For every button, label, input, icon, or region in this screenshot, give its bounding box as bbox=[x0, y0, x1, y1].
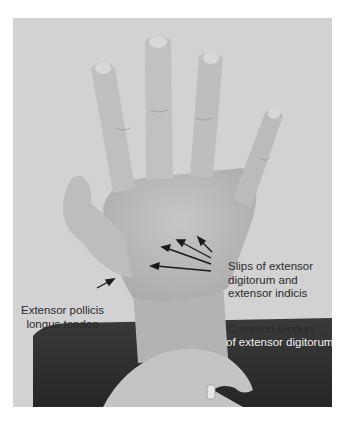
middle-finger bbox=[145, 36, 173, 180]
little-finger bbox=[233, 110, 283, 208]
label-line: longus tendon bbox=[21, 318, 104, 332]
label-line: extensor indicis bbox=[228, 287, 313, 301]
label-common-tendon-line1: Common tendon bbox=[228, 323, 313, 337]
fingernails bbox=[95, 36, 280, 119]
label-slips-of-extensor-digitorum: Slips of extensor digitorum and extensor… bbox=[228, 260, 313, 301]
label-extensor-pollicis-longus: Extensor pollicis longus tendon bbox=[21, 304, 104, 331]
label-line: Extensor pollicis bbox=[21, 304, 104, 318]
label-line: Slips of extensor bbox=[228, 260, 313, 274]
ring-finger bbox=[190, 52, 223, 178]
label-line: digitorum and bbox=[228, 274, 313, 288]
index-finger bbox=[91, 62, 135, 193]
wedding-ring bbox=[207, 385, 215, 399]
label-common-tendon-line2: of extensor digitorum bbox=[226, 336, 332, 350]
anatomy-photo: Slips of extensor digitorum and extensor… bbox=[13, 18, 332, 407]
